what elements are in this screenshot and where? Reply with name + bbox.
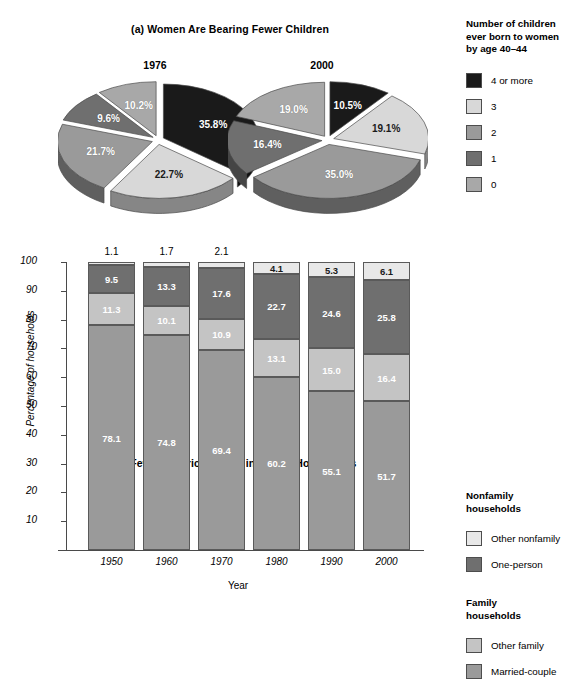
bar-segment[interactable]: 1.1: [88, 262, 135, 265]
bar-segment-value: 74.8: [144, 437, 189, 448]
bar-segment[interactable]: 25.8: [363, 280, 410, 354]
y-axis-tick: [61, 348, 66, 349]
y-axis-tick-label: 20: [7, 485, 37, 496]
bar-segment[interactable]: 2.1: [198, 262, 245, 268]
bar-segment-value: 11.3: [89, 303, 134, 314]
bar-segment-value: 13.1: [254, 352, 299, 363]
bar-segment[interactable]: 24.6: [308, 277, 355, 348]
bar-segment[interactable]: 55.1: [308, 391, 355, 550]
legend-bar-item-label: Other nonfamily: [491, 533, 560, 544]
bar-segment[interactable]: 16.4: [363, 354, 410, 401]
y-axis-tick: [61, 291, 66, 292]
bar-segment-value: 5.3: [309, 264, 354, 275]
bar-segment-value: 16.4: [364, 372, 409, 383]
legend-bar-item-label: Other family: [491, 640, 544, 651]
bar-segment-value: 69.4: [199, 445, 244, 456]
bar-segment[interactable]: 1.7: [143, 262, 190, 267]
bar-segment[interactable]: 13.3: [143, 267, 190, 305]
y-axis-tick-label: 10: [7, 514, 37, 525]
bar-segment[interactable]: 17.6: [198, 268, 245, 319]
panel-a-pie-charts: (a) Women Are Bearing Fewer Children 197…: [0, 0, 584, 228]
bar-segment[interactable]: 74.8: [143, 335, 190, 550]
legend-bar-group-family-line-1: Family: [466, 597, 584, 610]
bar-segment[interactable]: 60.2: [253, 377, 300, 550]
stacked-bar[interactable]: 74.810.113.31.7: [143, 262, 190, 550]
pie-slice-label: 22.7%: [145, 169, 193, 180]
y-axis-tick-label: 60: [7, 370, 37, 381]
bar-segment-value: 4.1: [254, 262, 299, 273]
bar-segment[interactable]: 5.3: [308, 262, 355, 277]
bar-segment[interactable]: 4.1: [253, 262, 300, 274]
legend-pie-item[interactable]: 0: [466, 172, 584, 198]
bar-segment[interactable]: 69.4: [198, 350, 245, 550]
legend-bar-item[interactable]: One-person: [466, 551, 584, 577]
y-axis: [66, 262, 67, 550]
legend-bar-item[interactable]: Other nonfamily: [466, 525, 584, 551]
legend-pie-item[interactable]: 3: [466, 94, 584, 120]
legend-bar-swatch-icon: [466, 664, 482, 679]
legend-bar-group-family-title: Family households: [466, 597, 584, 622]
pie-chart-2000: 10.5%19.1%35.0%16.4%19.0%: [228, 78, 428, 218]
legend-bar-swatch-icon: [466, 531, 482, 546]
legend-pie-item-label: 0: [491, 179, 496, 190]
legend-pie-item[interactable]: 4 or more: [466, 68, 584, 94]
pie-title-2000: 2000: [262, 59, 382, 71]
panel-a-title: (a) Women Are Bearing Fewer Children: [0, 23, 460, 35]
pie-slice-label: 9.6%: [85, 113, 133, 124]
y-axis-tick: [61, 406, 66, 407]
bar-segment-value: 25.8: [364, 311, 409, 322]
legend-bar-swatch-icon: [466, 557, 482, 572]
bar-segment[interactable]: 22.7: [253, 274, 300, 339]
legend-pie-item-label: 3: [491, 101, 496, 112]
legend-pie-title: Number of children ever born to women by…: [466, 18, 584, 56]
bar-segment[interactable]: 6.1: [363, 262, 410, 280]
legend-pie-swatch-icon: [466, 73, 482, 88]
legend-pie-title-line-1: Number of children: [466, 18, 584, 31]
y-axis-tick-label: 70: [7, 341, 37, 352]
bar-segment[interactable]: 10.9: [198, 319, 245, 350]
legend-pie-title-line-2: ever born to women: [466, 31, 584, 44]
y-axis-tick: [61, 521, 66, 522]
legend-bar-item[interactable]: Other family: [466, 632, 584, 658]
legend-pie-title-line-3: by age 40–44: [466, 43, 584, 56]
stacked-bar[interactable]: 69.410.917.62.1: [198, 262, 245, 550]
legend-bar-items-nonfamily: Other nonfamilyOne-person: [466, 525, 584, 577]
legend-pie: Number of children ever born to women by…: [466, 18, 584, 198]
bar-segment-value: 10.9: [199, 329, 244, 340]
y-axis-tick: [61, 435, 66, 436]
legend-bar-items-family: Other familyMarried-couple: [466, 632, 584, 683]
legend-bar-item-label: Married-couple: [491, 666, 556, 677]
legend-pie-item[interactable]: 2: [466, 120, 584, 146]
bar-segment-value: 60.2: [254, 458, 299, 469]
y-axis-tick-label: 40: [7, 428, 37, 439]
bar-segment-value: 22.7: [254, 301, 299, 312]
legend-pie-swatch-icon: [466, 151, 482, 166]
bar-segment[interactable]: 11.3: [88, 293, 135, 326]
y-axis-tick-label: 30: [7, 457, 37, 468]
stacked-bar[interactable]: 55.115.024.65.3: [308, 262, 355, 550]
bar-segment[interactable]: 15.0: [308, 348, 355, 391]
bar-segment-value: 51.7: [364, 470, 409, 481]
legend-bar-item-label: One-person: [491, 559, 543, 570]
bar-segment-value: 78.1: [89, 432, 134, 443]
legend-pie-item-label: 1: [491, 153, 496, 164]
legend-pie-item-label: 2: [491, 127, 496, 138]
stacked-bar[interactable]: 78.111.39.51.1: [88, 262, 135, 550]
y-axis-tick-label: 100: [7, 255, 37, 266]
bar-plot-area: 102030405060708090100 78.111.39.51.174.8…: [66, 262, 410, 550]
legend-pie-items: 4 or more3210: [466, 68, 584, 198]
stacked-bar[interactable]: 51.716.425.86.1: [363, 262, 410, 550]
y-axis-tick-label: 90: [7, 284, 37, 295]
bar-segment[interactable]: 9.5: [88, 265, 135, 292]
pie-slice-label: 10.2%: [115, 100, 163, 111]
legend-bar-item[interactable]: Married-couple: [466, 658, 584, 683]
stacked-bar[interactable]: 60.213.122.74.1: [253, 262, 300, 550]
legend-pie-item[interactable]: 1: [466, 146, 584, 172]
bar-segment[interactable]: 10.1: [143, 306, 190, 335]
bar-segment[interactable]: 78.1: [88, 325, 135, 550]
bar-segment[interactable]: 13.1: [253, 339, 300, 377]
bar-segment[interactable]: 51.7: [363, 401, 410, 550]
bar-segment-value: 55.1: [309, 465, 354, 476]
y-axis-tick-label: 50: [7, 399, 37, 410]
